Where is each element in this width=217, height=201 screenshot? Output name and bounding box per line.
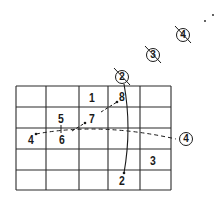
cell-label-7: 7	[89, 112, 95, 125]
cell-label-4: 4	[28, 133, 34, 146]
dot-4	[35, 133, 38, 136]
cell-label-1: 1	[89, 91, 95, 104]
cell-label-3: 3	[150, 154, 156, 167]
circled-label-text: 4	[183, 134, 189, 144]
circled-label-text: 3	[150, 50, 156, 60]
stray-dot	[212, 14, 214, 16]
stray-dot	[204, 20, 206, 22]
circled-label-4: 4	[179, 132, 193, 146]
cell-label-6: 6	[59, 133, 65, 146]
stray-dots	[204, 14, 214, 22]
dot-7	[84, 122, 87, 125]
dot-8	[116, 101, 119, 104]
grid-diagram: 185746322344	[0, 0, 217, 201]
circled-label-3: 3	[146, 48, 160, 62]
circled-label-text: 2	[119, 72, 125, 82]
circled-label-2: 2	[115, 70, 129, 84]
cell-label-5: 5	[58, 112, 64, 125]
circled-label-4: 4	[176, 28, 190, 42]
cell-label-2: 2	[119, 174, 125, 187]
dashed-arc-4	[36, 129, 176, 139]
cell-label-8: 8	[119, 90, 125, 103]
circled-label-text: 4	[180, 30, 186, 40]
